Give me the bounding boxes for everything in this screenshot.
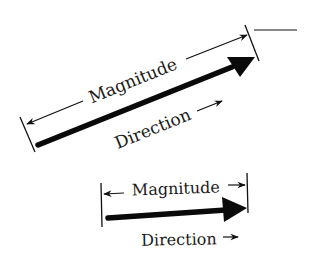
direction-arrow-icon [197,101,222,111]
vector-arrowhead [222,197,247,222]
vector-diagram: Magnitude Direction Magnitude Direction [0,0,311,257]
slanted-vector-figure: Magnitude Direction [20,25,297,153]
magnitude-right-arrow [186,35,247,59]
right-extent-tick [247,173,248,213]
direction-label: Direction [141,229,217,249]
magnitude-left-arrow [104,193,124,194]
magnitude-left-arrow [27,101,83,124]
vector-shaft [108,210,226,218]
magnitude-label: Magnitude [131,177,220,199]
magnitude-label: Magnitude [86,54,180,108]
horizontal-vector-figure: Magnitude Direction [101,173,248,250]
left-extent-tick [101,183,102,227]
